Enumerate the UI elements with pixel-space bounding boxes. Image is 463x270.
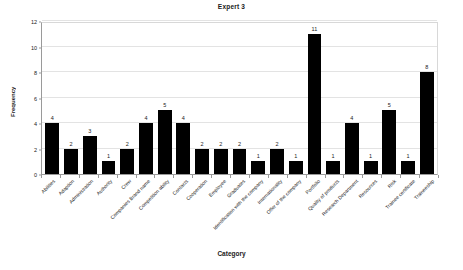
y-tick-label: 8 (34, 70, 37, 76)
y-tick-label: 10 (31, 45, 37, 51)
bar-value-label: 1 (257, 153, 260, 160)
bar[interactable]: 5 (158, 110, 172, 174)
bar[interactable]: 8 (420, 72, 434, 174)
bar-slot: 2 (193, 23, 212, 174)
y-tick-label: 4 (34, 121, 37, 127)
x-axis-label: Authority (95, 178, 113, 196)
bar[interactable]: 2 (233, 149, 247, 175)
bar[interactable]: 1 (251, 161, 265, 174)
bar-value-label: 4 (51, 115, 54, 122)
x-axis-label: Employee (207, 178, 227, 198)
bar[interactable]: 4 (345, 123, 359, 174)
bar-value-label: 4 (182, 115, 185, 122)
x-axis-label: Research Department (320, 178, 359, 217)
bar-value-label: 2 (126, 141, 129, 148)
x-axis-label: Resources (357, 178, 378, 199)
bar-value-label: 5 (388, 102, 391, 109)
bar-value-label: 4 (350, 115, 353, 122)
bar-slot: 5 (155, 23, 174, 174)
bar[interactable]: 4 (139, 123, 153, 174)
bar-slot: 1 (361, 23, 380, 174)
bar[interactable]: 3 (83, 136, 97, 174)
plot-area: 4231245422212111141518 (41, 22, 438, 175)
bar-value-label: 8 (425, 64, 428, 71)
bar-slot: 1 (249, 23, 268, 174)
bar-value-label: 4 (144, 115, 147, 122)
bar[interactable]: 4 (176, 123, 190, 174)
bar-value-label: 2 (238, 141, 241, 148)
bar-slot: 11 (305, 23, 324, 174)
bar-slot: 4 (174, 23, 193, 174)
x-axis-labels: AbilitiesAdaptionAdministrationAuthority… (41, 178, 438, 248)
x-tick-mark (438, 175, 439, 178)
bar-slot: 1 (324, 23, 343, 174)
bar-chart: Expert 3 Frequency 024681012 42312454222… (0, 0, 463, 270)
bar-value-label: 2 (275, 141, 278, 148)
bar-slot: 1 (286, 23, 305, 174)
bar-value-label: 1 (332, 153, 335, 160)
x-axis-label: Abilities (40, 178, 56, 194)
x-axis-title: Category (0, 250, 463, 257)
bars-layer: 4231245422212111141518 (42, 23, 437, 174)
x-axis-label: Portfolio (304, 178, 321, 195)
bar-value-label: 2 (219, 141, 222, 148)
bar[interactable]: 2 (214, 149, 228, 175)
bar-slot: 2 (268, 23, 287, 174)
bar-slot: 4 (137, 23, 156, 174)
gridline (42, 20, 437, 21)
bar-value-label: 3 (88, 128, 91, 135)
y-tick-label: 6 (34, 96, 37, 102)
bar-slot: 3 (80, 23, 99, 174)
bar-slot: 8 (417, 23, 436, 174)
bar-value-label: 1 (294, 153, 297, 160)
bar[interactable]: 2 (64, 149, 78, 175)
bar-slot: 2 (230, 23, 249, 174)
bar-value-label: 5 (163, 102, 166, 109)
chart-title: Expert 3 (0, 3, 463, 10)
bar-value-label: 1 (107, 153, 110, 160)
bar-value-label: 2 (70, 141, 73, 148)
x-axis-label: Crew (120, 178, 132, 190)
bar-value-label: 1 (406, 153, 409, 160)
bar[interactable]: 1 (326, 161, 340, 174)
y-tick-label: 12 (31, 19, 37, 25)
bar[interactable]: 5 (382, 110, 396, 174)
x-axis-label: Offer of the company (265, 178, 302, 215)
y-axis-ticks: 024681012 (0, 22, 41, 175)
bar[interactable]: 11 (308, 34, 322, 174)
bar[interactable]: 4 (45, 123, 59, 174)
bar-slot: 2 (118, 23, 137, 174)
bar[interactable]: 2 (195, 149, 209, 175)
y-tick-label: 0 (34, 172, 37, 178)
bar[interactable]: 2 (120, 149, 134, 175)
bar[interactable]: 1 (364, 161, 378, 174)
bar-slot: 2 (62, 23, 81, 174)
bar-slot: 4 (343, 23, 362, 174)
bar[interactable]: 1 (102, 161, 116, 174)
bar-value-label: 2 (201, 141, 204, 148)
bar-slot: 4 (43, 23, 62, 174)
bar[interactable]: 1 (289, 161, 303, 174)
bar-slot: 2 (211, 23, 230, 174)
bar-slot: 1 (99, 23, 118, 174)
bar-value-label: 11 (312, 26, 318, 33)
bar[interactable]: 2 (270, 149, 284, 175)
bar-value-label: 1 (369, 153, 372, 160)
bar[interactable]: 1 (401, 161, 415, 174)
x-axis-label: Contacts (171, 178, 189, 196)
x-axis-label: Risk (386, 178, 397, 189)
bar-slot: 5 (380, 23, 399, 174)
y-tick-label: 2 (34, 147, 37, 153)
bar-slot: 1 (399, 23, 418, 174)
